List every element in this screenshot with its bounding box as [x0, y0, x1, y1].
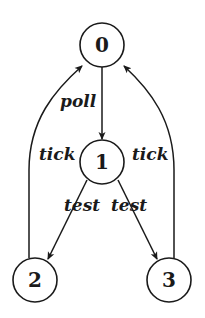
- state-diagram: poll test test tick tick 0 1 2 3: [0, 0, 205, 318]
- edge-label-test-left: test: [64, 195, 100, 215]
- node-3: 3: [147, 258, 191, 302]
- edge-1-to-2: [48, 180, 87, 259]
- node-2: 2: [13, 258, 57, 302]
- edge-label-tick-left: tick: [39, 144, 75, 164]
- edge-label-poll: poll: [60, 91, 97, 111]
- edge-label-tick-right: tick: [132, 144, 168, 164]
- node-1: 1: [80, 140, 124, 184]
- node-label-0: 0: [95, 33, 109, 57]
- node-label-1: 1: [95, 150, 109, 174]
- node-label-3: 3: [162, 268, 176, 292]
- node-label-2: 2: [28, 268, 42, 292]
- edge-1-to-3: [118, 180, 157, 259]
- node-0: 0: [80, 23, 124, 67]
- edge-label-test-right: test: [111, 195, 147, 215]
